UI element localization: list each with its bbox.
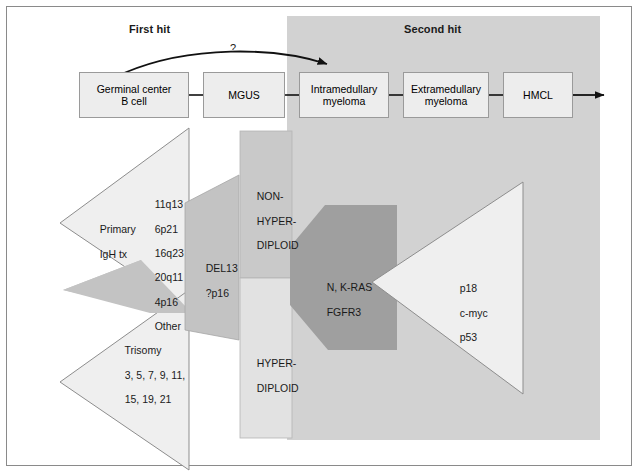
flow-step-germinal-center-b-cell[interactable]: Germinal center B cell xyxy=(79,72,189,118)
trisomy-label: Trisomy 3, 5, 7, 9, 11, 15, 19, 21 xyxy=(113,332,185,417)
flow-step-extramedullary-myeloma[interactable]: Extramedullary myeloma xyxy=(403,72,489,118)
del13-label: DEL13 ?p16 xyxy=(194,250,238,311)
bypass-question-mark: ? xyxy=(230,43,236,55)
flow-step-label: Germinal center B cell xyxy=(80,83,188,107)
flow-step-intramedullary-myeloma[interactable]: Intramedullary myeloma xyxy=(299,72,389,118)
primary-igh-tx-label: Primary IgH tx xyxy=(88,211,136,272)
flow-step-mgus[interactable]: MGUS xyxy=(203,72,285,118)
phase-title-second-hit: Second hit xyxy=(404,24,461,36)
flow-step-hmcl[interactable]: HMCL xyxy=(503,72,573,118)
phase-title-first-hit: First hit xyxy=(129,24,170,36)
flow-step-label: MGUS xyxy=(204,89,284,101)
non-hyperdiploid-label: NON- HYPER- DIPLOID xyxy=(245,178,299,263)
flow-step-label: Intramedullary myeloma xyxy=(300,83,388,107)
ras-fgfr3-label: N, K-RAS FGFR3 xyxy=(315,269,372,330)
flow-step-label: HMCL xyxy=(504,89,572,101)
figure-canvas: First hit Second hit ? Germinal center B… xyxy=(0,0,639,473)
late-events-label: p18 c-myc p53 xyxy=(448,270,488,355)
flow-step-label: Extramedullary myeloma xyxy=(404,83,488,107)
hyperdiploid-label: HYPER- DIPLOID xyxy=(245,345,299,406)
primary-igh-tx-loci-list: 11q13 6p21 16q23 20q11 4p16 Other xyxy=(143,186,184,345)
